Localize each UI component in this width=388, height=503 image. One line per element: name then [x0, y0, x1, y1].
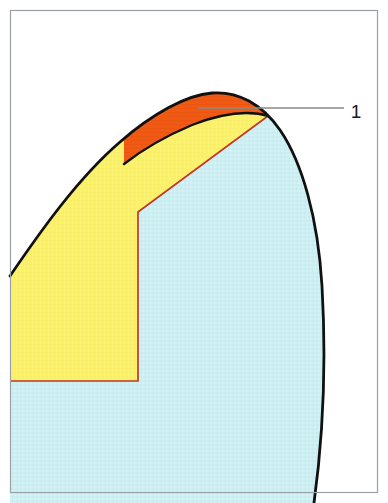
figure-root: 1 — [0, 0, 388, 503]
cross-section-diagram: 1 — [0, 0, 388, 503]
callout-label-text-1: 1 — [351, 101, 362, 122]
